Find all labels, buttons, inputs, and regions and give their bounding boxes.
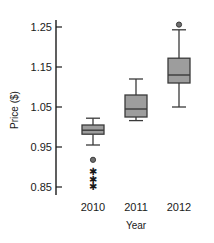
y-axis-tick-label: 1.05: [31, 101, 52, 113]
y-axis-tick-label: 0.95: [31, 141, 52, 153]
box-plot-group: ✱✱✱: [82, 118, 104, 192]
box-plot-chart: 0.850.951.051.151.25Price ($)✱✱✱20102011…: [0, 0, 214, 243]
y-axis-title: Price ($): [9, 91, 20, 129]
x-axis-category-label: 2011: [124, 201, 148, 213]
x-axis-category-label: 2012: [167, 201, 191, 213]
box-rect: [125, 95, 147, 117]
box-rect: [168, 58, 190, 83]
box-plot-group: [168, 22, 190, 107]
x-axis-title: Year: [126, 220, 147, 231]
box-plot-group: [125, 79, 147, 121]
outlier-circle-marker: [90, 157, 95, 162]
chart-canvas: 0.850.951.051.151.25Price ($)✱✱✱20102011…: [0, 0, 214, 243]
y-axis-tick-label: 1.25: [31, 21, 52, 33]
y-axis-tick-label: 1.15: [31, 61, 52, 73]
y-axis-tick-label: 0.85: [31, 181, 52, 193]
x-axis-category-label: 2010: [81, 201, 105, 213]
outlier-circle-marker: [176, 22, 181, 27]
outlier-star-marker: ✱: [89, 181, 97, 192]
